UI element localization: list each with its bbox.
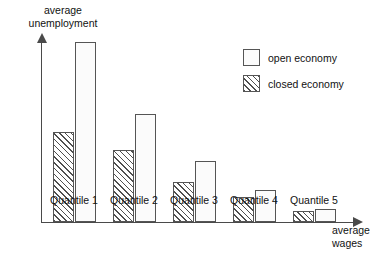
x-tick-label: Quantile 4 — [230, 194, 278, 206]
bar-open-economy — [195, 161, 216, 222]
bar-open-economy — [315, 209, 336, 222]
legend-label-closed-economy: closed economy — [268, 78, 344, 90]
x-tick-label: Quantile 5 — [290, 194, 338, 206]
x-tick-label: Quantile 3 — [170, 194, 218, 206]
x-tick-label: Quantile 2 — [110, 194, 158, 206]
plot-area: Quantile 1Quantile 2Quantile 3Quantile 4… — [0, 0, 389, 260]
legend-label-open-economy: open economy — [268, 52, 337, 64]
bar-group: Quantile 1 — [44, 42, 104, 222]
bar-closed-economy — [53, 132, 74, 222]
bar-closed-economy — [113, 150, 134, 222]
legend-swatch-closed-economy-icon — [243, 75, 260, 92]
legend-item-closed-economy: closed economy — [243, 75, 344, 92]
bar-group: Quantile 3 — [164, 42, 224, 222]
legend-item-open-economy: open economy — [243, 49, 344, 66]
x-tick-label: Quantile 1 — [50, 194, 98, 206]
bar-group: Quantile 2 — [104, 42, 164, 222]
bar-chart: average unemployment average wages Quant… — [0, 0, 389, 260]
legend-swatch-open-economy-icon — [243, 49, 260, 66]
bar-closed-economy — [293, 211, 314, 222]
chart-legend: open economy closed economy — [243, 49, 344, 101]
